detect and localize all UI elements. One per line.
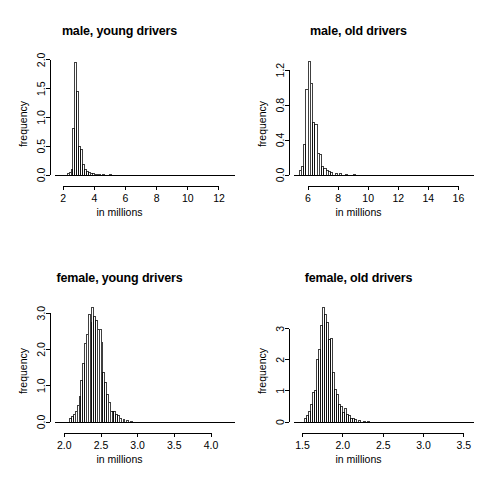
x-tick-label: 2.0	[57, 439, 72, 451]
x-tick-label: 3.0	[416, 439, 431, 451]
y-axis: 0.01.02.03.0	[35, 306, 50, 430]
y-tick-label: 2.0	[35, 342, 47, 357]
x-tick-label: 14	[423, 192, 435, 204]
x-tick-label: 1.5	[295, 439, 310, 451]
y-tick-label: 3	[274, 326, 286, 332]
x-tick-label: 12	[213, 192, 225, 204]
x-tick-label: 2.0	[336, 439, 351, 451]
panel-male-young: male, young drivers frequency 0.00.51.01…	[0, 0, 239, 247]
x-tick-label: 10	[182, 192, 194, 204]
x-axis-label: in millions	[0, 206, 239, 218]
y-tick-label: 2	[274, 357, 286, 363]
y-tick-label: 1.0	[35, 378, 47, 393]
bars	[304, 307, 369, 422]
x-axis: 6810121416	[305, 186, 464, 204]
histogram-grid: male, young drivers frequency 0.00.51.01…	[0, 0, 478, 494]
histogram-bar	[119, 418, 121, 422]
x-axis: 1.52.02.53.03.5	[295, 433, 471, 451]
bars	[67, 63, 112, 176]
y-tick-label: 2.0	[35, 52, 47, 67]
x-axis: 24681012	[60, 186, 225, 204]
y-axis: 0.00.40.81.2	[274, 63, 289, 183]
x-tick-label: 2.5	[94, 439, 109, 451]
y-tick-label: 1.2	[274, 63, 286, 78]
x-axis-label: in millions	[239, 206, 478, 218]
x-axis-label: in millions	[239, 453, 478, 465]
y-tick-label: 0.5	[35, 139, 47, 154]
x-tick-label: 8	[335, 192, 341, 204]
x-tick-label: 6	[305, 192, 311, 204]
x-tick-label: 3.5	[167, 439, 182, 451]
x-tick-label: 3.0	[130, 439, 145, 451]
y-tick-label: 0.0	[274, 168, 286, 183]
y-axis: 0.00.51.01.52.0	[35, 52, 50, 182]
y-tick-label: 0.8	[274, 98, 286, 113]
bars	[299, 61, 355, 175]
y-tick-label: 1.5	[35, 81, 47, 96]
x-tick-label: 8	[154, 192, 160, 204]
y-tick-label: 1	[274, 388, 286, 394]
y-tick-label: 0.0	[35, 168, 47, 183]
x-axis: 2.02.53.03.54.0	[57, 433, 218, 451]
y-axis: 0123	[274, 326, 289, 425]
y-tick-label: 0.4	[274, 133, 286, 148]
y-tick-label: 1.0	[35, 110, 47, 125]
panel-male-old: male, old drivers frequency 0.00.40.81.2…	[239, 0, 478, 247]
bars	[70, 308, 132, 422]
panel-female-young: female, young drivers frequency 0.01.02.…	[0, 247, 239, 494]
y-tick-label: 0.0	[35, 415, 47, 430]
x-tick-label: 6	[123, 192, 129, 204]
x-axis-label: in millions	[0, 453, 239, 465]
x-tick-label: 2.5	[376, 439, 391, 451]
x-tick-label: 4	[91, 192, 97, 204]
x-tick-label: 3.5	[457, 439, 472, 451]
x-tick-label: 4.0	[204, 439, 219, 451]
x-tick-label: 2	[60, 192, 66, 204]
y-tick-label: 0	[274, 419, 286, 425]
x-tick-label: 16	[453, 192, 465, 204]
y-tick-label: 3.0	[35, 306, 47, 321]
x-tick-label: 12	[392, 192, 404, 204]
x-tick-label: 10	[362, 192, 374, 204]
panel-female-old: female, old drivers frequency 01231.52.0…	[239, 247, 478, 494]
